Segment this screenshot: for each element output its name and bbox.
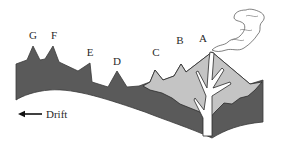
island-label-a: A: [199, 33, 207, 44]
drift-label: Drift: [46, 108, 67, 120]
island-label-f: F: [51, 30, 57, 41]
island-label-c: C: [152, 47, 159, 58]
island-label-g: G: [29, 30, 37, 41]
left-arrow-icon: [18, 110, 42, 118]
island-label-b: B: [176, 35, 183, 46]
drift-indicator: Drift: [18, 108, 67, 120]
island-label-e: E: [87, 47, 94, 58]
hotspot-island-chain-diagram: [0, 0, 281, 144]
smoke-plume-icon: [212, 9, 264, 51]
island-label-d: D: [113, 56, 121, 67]
